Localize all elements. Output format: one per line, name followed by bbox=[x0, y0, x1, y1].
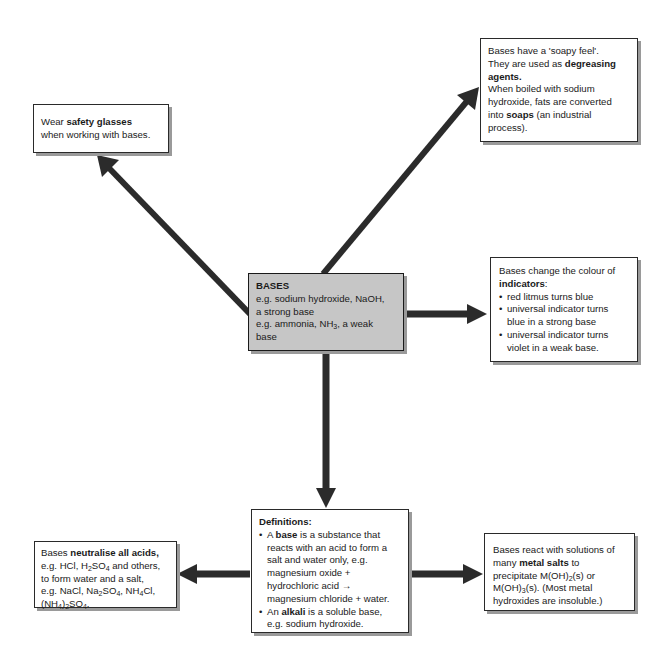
arrow-to-soapy bbox=[323, 100, 468, 274]
arrowhead-definitions bbox=[316, 488, 336, 508]
bases-title: BASES bbox=[256, 280, 289, 291]
arrowhead-metal-salts bbox=[463, 564, 483, 584]
soapy-feel-box: Bases have a 'soapy feel'. They are used… bbox=[480, 38, 638, 142]
center-line-1: e.g. sodium hydroxide, NaOH, bbox=[256, 293, 396, 306]
definition-bullet-alkali: An alkali is a soluble base, e.g. sodium… bbox=[259, 606, 401, 632]
center-line-2: a strong base bbox=[256, 306, 396, 319]
safety-glasses-bold: safety glasses bbox=[66, 116, 132, 127]
indicator-bullet: red litmus turns blue bbox=[499, 291, 629, 304]
definition-bullet-base: A base is a substance that reacts with a… bbox=[259, 529, 401, 606]
indicator-bullet: universal indicator turns blue in a stro… bbox=[499, 303, 629, 329]
definitions-box: Definitions: A base is a substance that … bbox=[251, 509, 409, 633]
bases-center-box: BASES e.g. sodium hydroxide, NaOH, a str… bbox=[248, 273, 404, 351]
arrow-to-safety bbox=[108, 167, 250, 314]
center-line-3: e.g. ammonia, NH3, a weak bbox=[256, 318, 396, 331]
arrowhead-neutralise bbox=[177, 564, 197, 584]
arrowhead-indicators bbox=[467, 304, 487, 324]
neutralise-acids-box: Bases neutralise all acids, e.g. HCl, H2… bbox=[34, 541, 177, 608]
center-line-4: base bbox=[256, 331, 396, 344]
definitions-title: Definitions: bbox=[259, 516, 312, 527]
indicator-bullet: universal indicator turns violet in a we… bbox=[499, 329, 629, 355]
indicators-box: Bases change the colour of indicators: r… bbox=[490, 257, 638, 362]
safety-glasses-box: Wear safety glasses when working with ba… bbox=[33, 104, 169, 153]
metal-salts-box: Bases react with solutions of many metal… bbox=[484, 533, 635, 611]
